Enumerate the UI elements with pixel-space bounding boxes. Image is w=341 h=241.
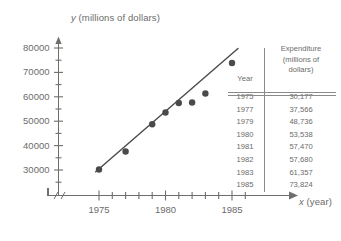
data-point-1977 [122,148,128,154]
table-row: 198361,357 [228,168,336,181]
table-cell-year: 1980 [228,130,262,139]
table-header-rule-top [228,92,336,93]
table-header-expenditure-line3: dollars) [266,65,336,76]
x-axis-arrowhead [289,192,298,200]
x-tick-label-1985: 1985 [215,204,249,215]
table-row: 198053,538 [228,130,336,143]
table-header-expenditure: Expenditure (millions of dollars) [266,44,336,76]
x-tick-label-1980: 1980 [149,204,183,215]
table-cell-expenditure: 61,357 [266,168,336,177]
table-cell-year: 1977 [228,105,262,114]
y-tick-label-80000: 80000 [8,42,50,53]
y-tick-label-60000: 60000 [8,91,50,102]
chart-figure: y (millions of dollars) x (year) [0,0,341,241]
y-axis-arrowhead [55,37,61,45]
y-tick-label-50000: 50000 [8,115,50,126]
table-row: 198573,824 [228,180,336,193]
table-cell-expenditure: 30,177 [266,92,336,101]
table-header-expenditure-line1: Expenditure [266,44,336,55]
axis-origin-corner [48,188,53,196]
data-table: Year Expenditure (millions of dollars) 1… [228,44,336,193]
table-cell-year: 1983 [228,168,262,177]
table-cell-expenditure: 53,538 [266,130,336,139]
table-row: 198157,470 [228,142,336,155]
data-point-1982 [189,99,195,105]
table-cell-expenditure: 37,566 [266,105,336,114]
x-tick-label-1975: 1975 [82,204,116,215]
table-cell-expenditure: 48,736 [266,117,336,126]
table-header-year: Year [228,74,262,83]
table-header-expenditure-line2: (millions of [266,55,336,66]
data-point-1983 [202,90,208,96]
table-row: 197530,177 [228,92,336,105]
table-body: 197530,177197737,566197948,736198053,538… [228,92,336,193]
table-cell-year: 1979 [228,117,262,126]
table-cell-expenditure: 57,680 [266,155,336,164]
table-column-divider [264,48,265,192]
data-point-1980 [162,109,168,115]
y-tick-label-30000: 30000 [8,164,50,175]
data-point-1979 [149,121,155,127]
data-point-1975 [96,166,102,172]
data-point-1981 [176,100,182,106]
table-row: 198257,680 [228,155,336,168]
table-cell-expenditure: 73,824 [266,180,336,189]
table-cell-expenditure: 57,470 [266,142,336,151]
table-cell-year: 1975 [228,92,262,101]
table-cell-year: 1985 [228,180,262,189]
table-row: 197948,736 [228,117,336,130]
table-cell-year: 1982 [228,155,262,164]
table-row: 197737,566 [228,105,336,118]
y-tick-label-40000: 40000 [8,140,50,151]
table-header-rule-bottom [228,95,336,96]
table-header: Year Expenditure (millions of dollars) [228,44,336,88]
table-cell-year: 1981 [228,142,262,151]
y-tick-label-70000: 70000 [8,66,50,77]
data-points [96,60,235,173]
